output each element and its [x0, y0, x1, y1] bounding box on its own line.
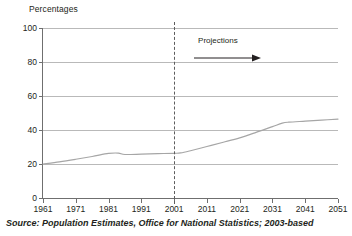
x-axis-tick: [240, 199, 241, 203]
x-axis-tick-label: 2051: [329, 204, 348, 214]
y-axis-tick-label: 0: [32, 193, 37, 203]
y-axis-tick-label: 40: [28, 125, 37, 135]
x-axis-tick-label: 1971: [66, 204, 85, 214]
projection-divider-line: [174, 22, 175, 204]
x-axis-tick-label: 2031: [263, 204, 282, 214]
x-axis-tick-label: 2001: [165, 204, 184, 214]
data-series-line: [43, 28, 338, 198]
x-axis-tick: [141, 199, 142, 203]
x-axis-tick-label: 1961: [34, 204, 53, 214]
x-axis-tick: [272, 199, 273, 203]
x-axis-tick: [109, 199, 110, 203]
x-axis-tick-label: 2011: [198, 204, 216, 214]
source-separator: [0, 214, 352, 215]
series-path: [43, 119, 338, 164]
projections-arrow-icon: [194, 49, 262, 58]
x-axis-tick: [76, 199, 77, 203]
x-axis-tick-label: 1981: [99, 204, 118, 214]
x-axis-tick-label: 2041: [296, 204, 315, 214]
x-axis-tick-label: 1991: [132, 204, 151, 214]
source-note: Source: Population Estimates, Office for…: [6, 218, 313, 228]
x-axis-tick: [43, 199, 44, 203]
x-axis-tick: [305, 199, 306, 203]
y-axis-tick-label: 20: [28, 159, 37, 169]
plot-area: 020406080100 196119711981199120012011202…: [43, 28, 338, 198]
y-axis-tick-label: 80: [28, 57, 37, 67]
x-axis-tick: [207, 199, 208, 203]
y-axis-tick-label: 100: [23, 23, 37, 33]
projections-annotation-label: Projections: [198, 36, 238, 45]
x-axis-tick: [338, 199, 339, 203]
x-axis-tick-label: 2021: [230, 204, 249, 214]
chart-figure: Percentages 020406080100 196119711981199…: [0, 0, 352, 236]
x-axis-line: [42, 198, 338, 199]
y-axis-unit-label: Percentages: [29, 4, 78, 14]
y-axis-tick-label: 60: [28, 91, 37, 101]
